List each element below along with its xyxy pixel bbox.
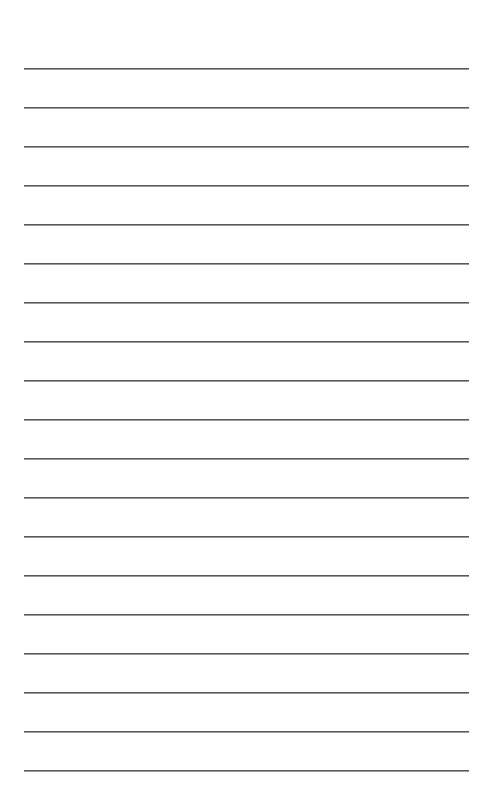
ruled-line <box>24 419 469 421</box>
ruled-line <box>24 536 469 538</box>
ruled-line <box>24 692 469 694</box>
ruled-line <box>24 614 469 616</box>
ruled-line <box>24 653 469 655</box>
ruled-line <box>24 380 469 382</box>
ruled-line <box>24 497 469 499</box>
ruled-line <box>24 107 469 109</box>
ruled-line <box>24 224 469 226</box>
ruled-line <box>24 575 469 577</box>
ruled-line <box>24 770 469 772</box>
ruled-line <box>24 731 469 733</box>
ruled-line <box>24 146 469 148</box>
ruled-line <box>24 341 469 343</box>
ruled-line <box>24 458 469 460</box>
ruled-line <box>24 302 469 304</box>
ruled-line <box>24 185 469 187</box>
ruled-line <box>24 263 469 265</box>
ruled-line <box>24 68 469 70</box>
